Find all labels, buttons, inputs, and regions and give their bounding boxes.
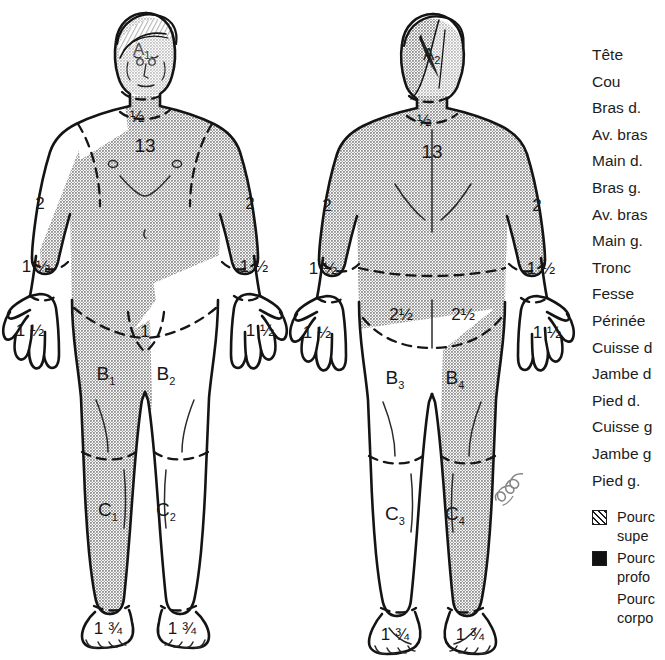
front-trunk-value: 13 [134, 135, 155, 156]
region-label: Cou [592, 69, 665, 96]
back-buttock-right-value: 2½ [451, 305, 475, 324]
front-forearm-right-value: 1 ½ [240, 257, 268, 276]
legend-line: Pourc [617, 508, 665, 527]
front-foot-right-value: 1 ¾ [168, 619, 197, 638]
burn-shading-region [10, 96, 272, 620]
region-label: Tête [592, 42, 665, 69]
back-forearm-right-value: 1 ½ [527, 259, 555, 278]
hatched-square-icon [592, 510, 607, 525]
legend-line: corpo [617, 609, 665, 628]
back-hand-left-value: 1 ½ [303, 323, 331, 342]
anterior-body-figure: A1 ½ 13 2 2 1 ½ 1 ½ 1 ½ 1 ½ 1 B1 B2 C1 C… [0, 0, 290, 660]
legend-entry-deep: Pourc profo [592, 549, 665, 587]
region-label: Pied d. [592, 388, 665, 415]
back-thigh-left-value: B3 [386, 367, 405, 391]
region-label: Périnée [592, 308, 665, 335]
back-buttock-left-value: 2½ [389, 305, 413, 324]
region-label: Jambe d [592, 361, 665, 388]
front-arm-right-value: 2 [245, 194, 254, 213]
legend-line: supe [617, 527, 665, 546]
back-leg-left-value: C3 [385, 503, 405, 527]
region-label: Av. bras [592, 202, 665, 229]
front-hand-left-value: 1 ½ [16, 321, 44, 340]
region-label: Pied g. [592, 468, 665, 495]
legend-line: profo [617, 568, 665, 587]
lund-browder-chart: A1 ½ 13 2 2 1 ½ 1 ½ 1 ½ 1 ½ 1 B1 B2 C1 C… [0, 0, 665, 660]
front-forearm-left-value: 1 ½ [22, 257, 50, 276]
region-label: Jambe g [592, 441, 665, 468]
back-foot-right-value: 1 ¾ [456, 625, 485, 644]
legend-line: Pourc [617, 549, 665, 568]
back-forearm-left-value: 1 ½ [309, 259, 337, 278]
region-label: Cuisse g [592, 414, 665, 441]
posterior-body-figure: A2 ½ 13 2 2 1 ½ 1 ½ 1 ½ 1 ½ 2½ 2½ B3 B4 … [283, 0, 583, 660]
legend-entry-superficial: Pourc supe [592, 508, 665, 546]
back-arm-right-value: 2 [532, 196, 541, 215]
back-foot-left-value: 1 ¾ [381, 625, 410, 644]
back-hand-right-value: 1 ½ [533, 323, 561, 342]
back-trunk-value: 13 [421, 141, 442, 162]
region-label: Fesse [592, 281, 665, 308]
front-leg-right-value: C2 [156, 499, 176, 523]
front-neck-value: ½ [130, 107, 144, 126]
region-label: Main g. [592, 228, 665, 255]
front-hand-right-value: 1 ½ [246, 321, 274, 340]
front-foot-left-value: 1 ¾ [94, 619, 123, 638]
legend: Pourc supe Pourc profo Pourc corpo [592, 508, 665, 631]
region-label: Tronc [592, 255, 665, 282]
region-label: Cuisse d [592, 335, 665, 362]
front-arm-left-value: 2 [35, 194, 44, 213]
region-label: Bras d. [592, 95, 665, 122]
body-region-label-list: Tête Cou Bras d. Av. bras Main d. Bras g… [592, 42, 665, 494]
back-neck-value: ½ [417, 111, 431, 130]
front-perineum-value: 1 [140, 322, 149, 341]
region-label: Av. bras [592, 122, 665, 149]
legend-line: Pourc [617, 590, 665, 609]
artist-signature [493, 468, 522, 508]
solid-square-icon [592, 551, 607, 566]
back-arm-left-value: 2 [322, 196, 331, 215]
front-thigh-right-value: B2 [157, 363, 176, 387]
region-label: Main d. [592, 148, 665, 175]
legend-entry-total: Pourc corpo [592, 590, 665, 628]
region-label: Bras g. [592, 175, 665, 202]
